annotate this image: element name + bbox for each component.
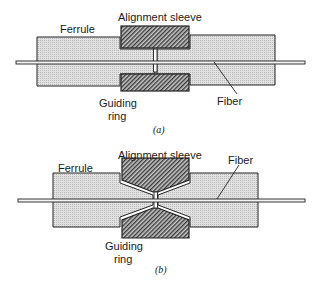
fiber-b — [18, 199, 305, 202]
label-ferrule-b: Ferrule — [58, 162, 93, 174]
label-ferrule-a: Ferrule — [60, 23, 95, 35]
caption-b: (b) — [155, 264, 167, 275]
alignment-sleeve-bottom-a — [121, 74, 189, 91]
guiding-ring-a — [154, 49, 158, 72]
label-alignment-sleeve-b: Alignment sleeve — [118, 149, 202, 161]
label-fiber-b: Fiber — [228, 154, 253, 166]
caption-a: (a) — [153, 124, 165, 135]
panel-a — [16, 26, 305, 94]
label-guiding-ring-a-line2: ring — [108, 110, 126, 122]
label-alignment-sleeve-a: Alignment sleeve — [118, 11, 202, 23]
alignment-sleeve-top-a — [121, 26, 189, 48]
fiber-connector-diagram — [0, 0, 314, 283]
label-guiding-ring-b-line1: Guiding — [105, 240, 143, 252]
fiber-a — [16, 61, 305, 64]
label-fiber-a: Fiber — [217, 95, 242, 107]
label-guiding-ring-a-line1: Guiding — [99, 97, 137, 109]
label-guiding-ring-b-line2: ring — [114, 253, 132, 265]
